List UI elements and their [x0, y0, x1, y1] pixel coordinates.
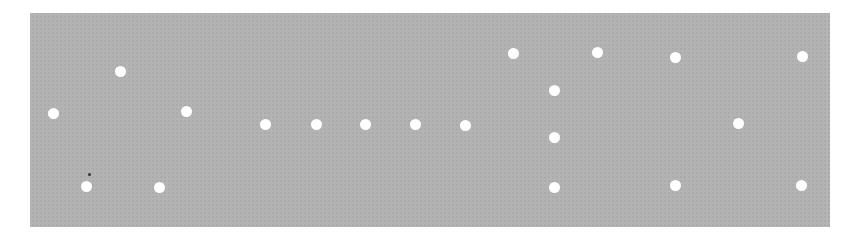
dot	[549, 85, 560, 96]
dot	[797, 51, 808, 62]
dot	[154, 182, 165, 193]
speck	[88, 173, 91, 176]
dot	[181, 106, 192, 117]
dot	[592, 47, 603, 58]
dot	[115, 66, 126, 77]
dot	[670, 52, 681, 63]
dot	[360, 119, 371, 130]
dot	[733, 118, 744, 129]
dot	[796, 180, 807, 191]
dot	[48, 108, 59, 119]
dot	[311, 119, 322, 130]
dot	[549, 132, 560, 143]
dot	[81, 181, 92, 192]
dot	[549, 182, 560, 193]
dot	[460, 120, 471, 131]
dot	[260, 119, 271, 130]
dot-pattern-panel	[30, 13, 830, 227]
dot	[410, 119, 421, 130]
dot	[670, 180, 681, 191]
dot	[508, 48, 519, 59]
